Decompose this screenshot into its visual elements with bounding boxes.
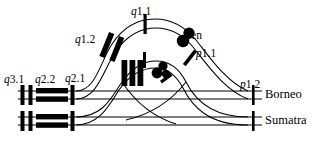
label-p1-1-number: 1.1 — [202, 47, 216, 59]
borneo-tick-q2-1 — [71, 85, 75, 105]
label-q2-2: q2.2 — [35, 74, 55, 86]
inner-bar-1 — [122, 60, 128, 86]
label-cen-text: cen — [186, 29, 202, 41]
row-borneo — [18, 85, 262, 105]
label-q1-1: q1.1 — [131, 6, 151, 18]
sumatra-band-block-bottom — [36, 122, 68, 127]
inner-band-blocks — [122, 60, 144, 86]
label-q1-1-number: 1.1 — [137, 5, 151, 17]
label-q3-1: q3.1 — [4, 74, 24, 86]
label-p1-1: p1.1 — [196, 48, 216, 60]
label-p1-2: p1.2 — [240, 79, 260, 91]
borneo-band-block-bottom — [36, 96, 68, 101]
figure-canvas: q3.1 q2.2 q2.1 q1.2 q1.1 cen p1.1 p1.2 B… — [0, 0, 316, 146]
label-species-sumatra: Sumatra — [265, 114, 307, 127]
sumatra-tick-q3-1-outer — [21, 111, 25, 131]
inner-centromere-cluster — [152, 61, 173, 83]
label-cen: cen — [186, 30, 202, 42]
inner-bar-3 — [138, 60, 144, 86]
marker-p1-1 — [183, 50, 197, 66]
marker-q1-2 — [99, 32, 124, 62]
label-q1-2-number: 1.2 — [81, 33, 95, 45]
connector-crossing-right — [126, 82, 186, 120]
label-q2-2-number: 2.2 — [41, 73, 55, 85]
inner-cen-dot-2 — [158, 61, 167, 70]
label-species-borneo: Borneo — [265, 88, 302, 101]
label-q2-1: q2.1 — [65, 73, 85, 85]
sumatra-tick-p1-2 — [252, 111, 255, 131]
tick-p1-1 — [183, 50, 197, 66]
borneo-band-block-top — [36, 88, 68, 93]
marker-inner-q1-1 — [143, 52, 146, 68]
inner-bar-2 — [130, 60, 136, 86]
label-q3-1-number: 3.1 — [10, 73, 24, 85]
sumatra-tick-q3-1-inner — [29, 111, 33, 131]
sumatra-band-block-top — [36, 114, 68, 119]
tick-inner-q1-1 — [143, 52, 146, 68]
label-q2-1-number: 2.1 — [71, 72, 85, 84]
label-q1-2: q1.2 — [75, 34, 95, 46]
label-p1-2-number: 1.2 — [246, 78, 260, 90]
borneo-tick-q3-1-outer — [21, 85, 25, 105]
sumatra-tick-q2-1 — [71, 111, 75, 131]
borneo-tick-q3-1-inner — [29, 85, 33, 105]
connector-crossing-left — [122, 82, 176, 124]
